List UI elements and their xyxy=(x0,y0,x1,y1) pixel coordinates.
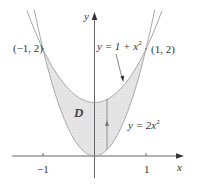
point-label-1-2: (1, 2) xyxy=(151,44,175,55)
x-tick-label-1: 1 xyxy=(144,164,150,175)
pointer-arrow-icon xyxy=(120,76,124,82)
y-axis-label: y xyxy=(84,11,89,22)
upper-curve-exponent: 2 xyxy=(138,39,142,47)
lower-curve-equation-text: y = 2x xyxy=(128,119,156,131)
region-d-label: D xyxy=(74,106,83,119)
lower-curve-equation: y = 2x2 xyxy=(128,119,160,131)
x-tick-label-minus-1: −1 xyxy=(37,164,49,175)
upper-curve-equation: y = 1 + x2 xyxy=(97,40,142,52)
upper-curve-pointer xyxy=(116,54,124,82)
x-axis-label: x xyxy=(177,162,182,173)
point-label-minus-1-2: (−1, 2) xyxy=(13,43,43,54)
upper-curve-equation-text: y = 1 + x xyxy=(97,40,138,52)
region-diagram xyxy=(0,0,198,190)
x-axis-arrow-icon xyxy=(176,153,184,159)
lower-curve-exponent: 2 xyxy=(156,118,160,126)
point-1-2 xyxy=(145,48,147,50)
y-axis-arrow-icon xyxy=(92,12,98,20)
